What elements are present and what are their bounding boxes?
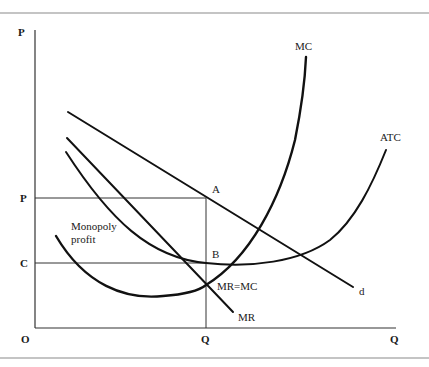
atc-label: ATC <box>380 131 401 143</box>
x-axis-label: Q <box>390 333 399 345</box>
monopoly-profit-label-line1: Monopoly <box>71 220 117 232</box>
point-a-label: A <box>212 183 220 195</box>
mr-label: MR <box>238 311 256 323</box>
quantity-tick-label: Q <box>201 333 210 345</box>
mc-curve <box>56 57 306 297</box>
mc-label: MC <box>295 40 312 52</box>
origin-label: O <box>21 333 30 345</box>
price-tick-label: P <box>20 192 27 204</box>
demand-label: d <box>359 285 365 297</box>
mr-equals-mc-label: MR=MC <box>217 280 257 292</box>
monopoly-profit-label-line2: profit <box>71 233 95 245</box>
point-b-label: B <box>212 248 219 260</box>
cost-tick-label: C <box>20 257 28 269</box>
demand-curve <box>68 112 353 287</box>
atc-curve <box>66 150 386 265</box>
y-axis-label: P <box>18 26 25 38</box>
monopoly-diagram: P O Q P C Q MC ATC d MR A B MR=MC Monopo… <box>0 0 429 367</box>
